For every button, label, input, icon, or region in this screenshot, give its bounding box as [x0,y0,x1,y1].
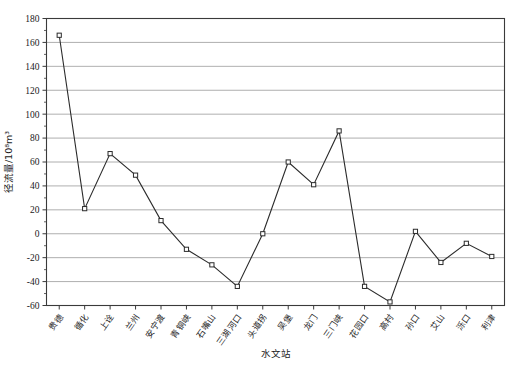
y-tick-label: 120 [25,86,40,96]
data-point-marker [83,207,87,211]
y-axis-tick-labels: 180160140120100806040200-20-40-60 [25,14,40,311]
data-point-marker [388,300,392,304]
data-point-marker [184,247,188,251]
x-tick-label: 吴堡 [276,312,295,332]
data-markers [57,33,494,304]
x-tick-label: 花园口 [347,312,371,340]
x-tick-label: 孙口 [403,312,422,332]
data-point-marker [312,183,316,187]
x-tick-label: 贵德 [47,312,66,332]
data-point-marker [286,160,290,164]
y-axis-ticks [43,19,47,306]
y-tick-label: 20 [30,205,40,215]
y-axis-title: 径流量/10⁸m³ [3,131,14,193]
y-tick-label: 80 [30,133,40,143]
data-point-marker [413,229,417,233]
x-tick-label: 青铜峡 [169,312,193,340]
x-tick-label: 上诠 [98,312,117,332]
data-point-marker [261,232,265,236]
x-tick-label: 安宁渡 [143,312,167,340]
data-point-marker [235,284,239,288]
y-tick-label: 40 [30,181,40,191]
y-tick-label: -60 [27,301,40,311]
y-tick-label: 180 [25,14,40,24]
y-tick-label: 0 [35,229,40,239]
y-tick-label: 60 [30,157,40,167]
data-point-marker [362,284,366,288]
chart-figure: 180160140120100806040200-20-40-60 贵德循化上诠… [0,0,518,366]
x-tick-label: 头道拐 [245,312,269,340]
y-tick-label: 160 [25,38,40,48]
data-point-marker [159,219,163,223]
x-axis-ticks [59,306,492,310]
x-tick-label: 三门峡 [322,312,346,340]
x-tick-label: 利津 [479,312,498,332]
y-tick-label: -20 [27,253,40,263]
runoff-line-chart: 180160140120100806040200-20-40-60 贵德循化上诠… [0,0,518,366]
x-tick-label: 泺口 [454,312,473,332]
data-point-marker [210,263,214,267]
data-point-marker [464,241,468,245]
x-axis-tick-labels: 贵德循化上诠兰州安宁渡青铜峡石嘴山三湖河口头道拐吴堡龙门三门峡花园口高村孙口艾山… [47,312,498,347]
x-tick-label: 高村 [378,312,397,332]
data-point-marker [108,152,112,156]
data-point-marker [57,33,61,37]
x-tick-label: 循化 [72,312,91,332]
data-point-marker [133,173,137,177]
x-axis-title: 水文站 [261,348,291,359]
x-tick-label: 艾山 [429,312,448,332]
x-tick-label: 三湖河口 [215,312,244,347]
data-series-line [59,35,492,302]
x-tick-label: 兰州 [123,312,142,332]
x-tick-label: 龙门 [301,312,320,332]
y-tick-label: 100 [25,110,40,120]
data-point-marker [337,129,341,133]
y-tick-label: 140 [25,62,40,72]
y-tick-label: -40 [27,277,40,287]
gridlines [47,42,505,281]
x-tick-label: 石嘴山 [194,312,218,340]
data-point-marker [490,254,494,258]
data-point-marker [439,260,443,264]
